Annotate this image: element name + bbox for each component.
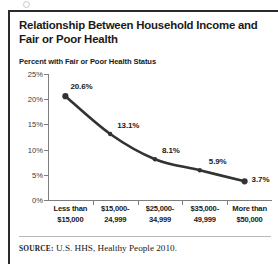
data-point-marker (198, 168, 202, 172)
data-point-label: 13.1% (117, 121, 139, 130)
source-value: U.S. HHS, Healthy People 2010. (54, 243, 177, 253)
y-tick-mark (44, 74, 48, 75)
x-category-label: More than$50,000 (223, 204, 276, 225)
y-tick-mark (44, 175, 48, 176)
data-point-label: 8.1% (162, 146, 180, 155)
chart-subtitle: Percent with Fair or Poor Health Status (19, 57, 156, 66)
scan-artifact-speck (23, 1, 30, 8)
data-point-marker (153, 157, 157, 161)
y-tick-mark (44, 200, 48, 201)
data-point-marker (62, 93, 68, 99)
data-point-marker (242, 178, 248, 184)
source-note: SOURCE: U.S. HHS, Healthy People 2010. (19, 243, 177, 253)
data-point-label: 20.6% (70, 82, 92, 91)
y-tick-mark (44, 99, 48, 100)
plot-area: 0%5%10%15%20%25% 20.6%13.1%8.1%5.9%3.7% (19, 70, 275, 206)
y-tick-mark (44, 150, 48, 151)
x-category-label-line: $50,000 (223, 215, 276, 226)
figure-panel: Relationship Between Household Income an… (0, 0, 278, 264)
data-point-marker (108, 132, 112, 136)
x-category-label-line: More than (223, 204, 276, 215)
data-point-label: 5.9% (209, 157, 227, 166)
x-axis-labels: Less than$15,000$15,000-24,999$25,000-34… (19, 204, 275, 230)
chart-title: Relationship Between Household Income an… (19, 18, 264, 46)
line-series (19, 70, 275, 206)
y-tick-mark (44, 124, 48, 125)
source-divider (19, 236, 271, 237)
data-point-label: 3.7% (252, 175, 270, 184)
source-label: SOURCE: (19, 244, 54, 253)
